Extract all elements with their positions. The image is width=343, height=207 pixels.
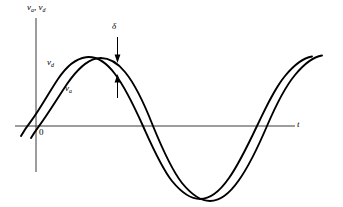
delta-arrowhead-down (115, 55, 121, 64)
delta-label: δ (112, 22, 116, 31)
figure-container: va, vd t 0 vd va δ (0, 0, 343, 207)
curve-label-vd-subscript: d (51, 62, 54, 68)
origin-label: 0 (39, 128, 44, 137)
y-axis-label-va-subscript: a (31, 7, 34, 13)
curve-vd (21, 57, 312, 200)
y-axis-label: va, vd (27, 3, 45, 12)
curve-label-vd: vd (47, 58, 54, 67)
curve-label-va-subscript: a (69, 88, 72, 94)
x-axis-label: t (297, 120, 300, 129)
y-axis-label-vd-subscript: d (42, 7, 45, 13)
curve-va (31, 56, 322, 202)
curve-label-va: va (65, 84, 72, 93)
plot-canvas (0, 0, 343, 207)
